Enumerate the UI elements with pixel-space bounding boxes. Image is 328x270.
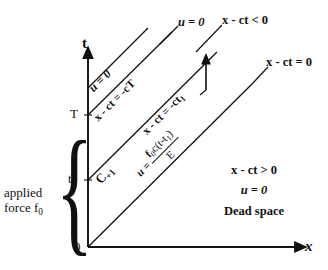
leader-x-minus-ct-eq-0 — [252, 67, 268, 84]
dead-space-block: x - ct > 0 u = 0 Dead space — [202, 160, 306, 221]
axis-label-x: x — [305, 239, 313, 254]
dead-space-line2: u = 0 — [202, 180, 306, 200]
equation-pointer-elbow — [200, 90, 206, 95]
applied-force-label: applied force f0 — [4, 185, 43, 218]
label-u-equals-zero-top: u = 0 — [178, 16, 205, 29]
applied-force-line2-text: force f — [4, 200, 38, 215]
applied-force-line1: applied — [4, 185, 43, 200]
leader-x-minus-ct-lt-0 — [196, 25, 222, 52]
figure-canvas: t x 0 T t1 { applied force f0 u = 0 x - … — [0, 0, 328, 270]
leader-u-equals-zero-top — [160, 26, 178, 44]
applied-force-f0-sub: 0 — [38, 207, 43, 217]
label-x-minus-ct-equals-zero: x - ct = 0 — [266, 56, 312, 69]
applied-force-line2: force f0 — [4, 200, 43, 218]
axis-label-t: t — [82, 36, 87, 51]
dead-space-line1: x - ct > 0 — [202, 160, 306, 180]
label-x-minus-ct-less-than-zero: x - ct < 0 — [222, 14, 268, 27]
applied-force-brace: { — [56, 120, 93, 260]
dead-space-line3: Dead space — [202, 201, 306, 221]
